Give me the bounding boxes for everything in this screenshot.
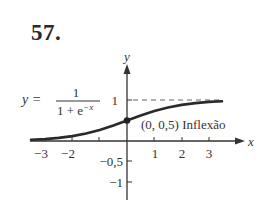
x-tick-label: −2	[61, 146, 75, 161]
x-axis-label: x	[247, 134, 254, 149]
equation-denominator: 1 + e−x	[57, 102, 93, 118]
x-tick-label: 2	[179, 146, 186, 161]
y-tick-label-neg-half: −0,5	[99, 154, 123, 169]
x-axis-arrow-icon	[235, 138, 245, 145]
inflection-label: (0, 0,5) Inflexão	[141, 117, 225, 132]
equation-numerator: 1	[73, 85, 80, 100]
x-tick-label: −3	[34, 146, 48, 161]
sigmoid-chart: y = 1 1 + e−x y x −3 −2 1 2 3 1 −0,5 −1 …	[0, 0, 275, 221]
x-tick-label: 1	[152, 146, 159, 161]
y-tick-label-1: 1	[112, 93, 119, 108]
y-tick-label-neg-one: −1	[109, 175, 123, 190]
inflection-point	[124, 117, 131, 124]
equation-label: y = 1 1 + e−x	[20, 85, 100, 118]
y-axis-arrow-icon	[124, 64, 131, 74]
y-axis-label: y	[122, 49, 130, 64]
x-tick-label: 3	[206, 146, 213, 161]
equation-lhs: y =	[20, 92, 41, 107]
